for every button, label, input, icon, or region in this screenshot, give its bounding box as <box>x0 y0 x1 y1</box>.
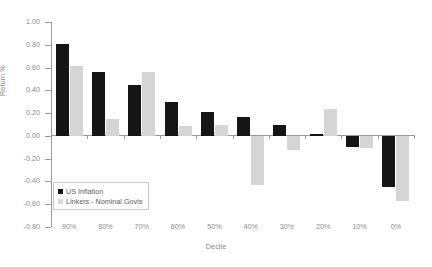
legend-swatch-icon <box>58 199 63 204</box>
bar-linkers-nominal-govis-80pct <box>106 119 119 136</box>
y-axis-tick-label: 0.00 <box>0 132 40 140</box>
y-axis-title: Return % <box>0 65 7 96</box>
bar-linkers-nominal-govis-40pct <box>251 136 264 185</box>
x-axis-tick <box>414 135 415 139</box>
x-axis-tick-label: 70% <box>122 222 162 231</box>
bar-linkers-nominal-govis-60pct <box>179 126 192 136</box>
y-axis-tick-label: -0.40 <box>0 177 40 185</box>
bar-us-inflation-90pct <box>56 44 69 136</box>
bar-us-inflation-10pct <box>346 136 359 147</box>
x-axis-tick <box>87 135 88 139</box>
bar-linkers-nominal-govis-50pct <box>215 125 228 136</box>
x-axis-tick-label: 60% <box>158 222 198 231</box>
y-axis-tick-label: -0.20 <box>0 155 40 163</box>
y-axis-tick-label: 1.00 <box>0 18 40 26</box>
x-axis-tick-label: 90% <box>49 222 89 231</box>
x-axis-tick <box>341 135 342 139</box>
x-axis-tick <box>51 135 52 139</box>
y-axis-tick-label: 0.20 <box>0 109 40 117</box>
bar-us-inflation-40pct <box>237 117 250 136</box>
x-axis-tick <box>160 135 161 139</box>
bar-us-inflation-0pct <box>382 136 395 187</box>
x-axis-tick <box>378 135 379 139</box>
x-axis-tick <box>233 135 234 139</box>
bar-chart: 1.000.800.600.400.200.00-0.20-0.40-0.60-… <box>0 0 432 267</box>
x-axis-tick-label: 20% <box>303 222 343 231</box>
bar-linkers-nominal-govis-90pct <box>70 66 83 135</box>
x-axis-tick <box>124 135 125 139</box>
bar-linkers-nominal-govis-10pct <box>360 136 373 149</box>
x-axis-tick-label: 0% <box>376 222 416 231</box>
x-axis-tick-label: 30% <box>267 222 307 231</box>
bar-us-inflation-60pct <box>165 102 178 136</box>
legend-item-us-inflation: US Inflation <box>58 186 142 196</box>
x-axis-tick <box>305 135 306 139</box>
y-axis-tick-label: -0.60 <box>0 200 40 208</box>
bar-linkers-nominal-govis-20pct <box>324 109 337 136</box>
x-axis-tick-label: 80% <box>85 222 125 231</box>
x-axis-title: Decile <box>0 242 432 251</box>
x-axis-tick-label: 50% <box>194 222 234 231</box>
bar-us-inflation-50pct <box>201 112 214 136</box>
x-axis-tick <box>196 135 197 139</box>
y-axis-tick-label: -0.80 <box>0 223 40 231</box>
bar-us-inflation-70pct <box>128 85 141 136</box>
legend-item-linkers-nominal-govis: Linkers - Nominal Govis <box>58 196 142 206</box>
bar-linkers-nominal-govis-30pct <box>287 136 300 150</box>
bar-linkers-nominal-govis-70pct <box>142 72 155 136</box>
bar-linkers-nominal-govis-0pct <box>396 136 409 201</box>
x-axis-tick-label: 40% <box>231 222 271 231</box>
x-axis-tick-label: 10% <box>340 222 380 231</box>
legend-label: US Inflation <box>66 187 103 196</box>
y-axis-tick-label: 0.80 <box>0 41 40 49</box>
bar-us-inflation-80pct <box>92 72 105 136</box>
bar-us-inflation-20pct <box>310 134 323 136</box>
bar-us-inflation-30pct <box>273 125 286 136</box>
legend-label: Linkers - Nominal Govis <box>66 197 142 206</box>
x-axis-tick <box>269 135 270 139</box>
legend: US Inflation Linkers - Nominal Govis <box>53 182 149 210</box>
legend-swatch-icon <box>58 189 63 194</box>
